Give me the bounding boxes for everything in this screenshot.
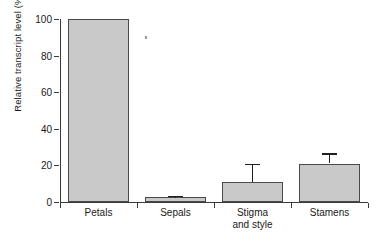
x-tick-label-line: Stamens xyxy=(291,207,368,219)
y-tick-label: 100 xyxy=(26,14,52,25)
bar-sepals xyxy=(145,197,206,202)
image-artifact-speck xyxy=(145,36,147,39)
y-tick-mark xyxy=(54,165,59,166)
error-bar-stamens-cap xyxy=(322,153,337,154)
y-axis-tick-labels: 100 80 60 40 20 0 xyxy=(22,0,52,250)
bar-petals xyxy=(68,19,129,202)
error-bar-stigma-line xyxy=(252,164,253,182)
y-axis-line xyxy=(60,19,61,203)
x-tick-label-line: and style xyxy=(214,219,291,231)
x-tick-label-stigma-and-style: Stigma and style xyxy=(214,207,291,231)
x-tick-label-line: Stigma xyxy=(214,207,291,219)
x-tick-label-sepals: Sepals xyxy=(137,207,214,219)
x-tick-label-line: Sepals xyxy=(137,207,214,219)
error-bar-sepals-cap xyxy=(168,196,183,197)
x-tick-label-petals: Petals xyxy=(60,207,137,219)
x-tick-label-stamens: Stamens xyxy=(291,207,368,219)
y-tick-label: 20 xyxy=(26,160,52,171)
y-tick-label: 0 xyxy=(26,197,52,208)
x-tick-mark xyxy=(368,203,369,208)
error-bar-stamens-line xyxy=(329,153,330,163)
y-tick-label: 60 xyxy=(26,87,52,98)
bar-stigma-and-style xyxy=(222,182,283,202)
y-axis-label: Relative transcript level (%) xyxy=(12,0,23,148)
bar-stamens xyxy=(299,164,360,203)
x-tick-label-line: Petals xyxy=(60,207,137,219)
error-bar-stigma-cap xyxy=(245,164,260,165)
y-tick-label: 80 xyxy=(26,50,52,61)
bar-chart-figure: Relative transcript level (%) 100 80 60 … xyxy=(0,0,381,250)
y-tick-mark xyxy=(54,202,59,203)
y-tick-mark xyxy=(54,129,59,130)
y-tick-mark xyxy=(54,56,59,57)
y-tick-label: 40 xyxy=(26,123,52,134)
y-tick-mark xyxy=(54,92,59,93)
y-tick-mark xyxy=(54,19,59,20)
